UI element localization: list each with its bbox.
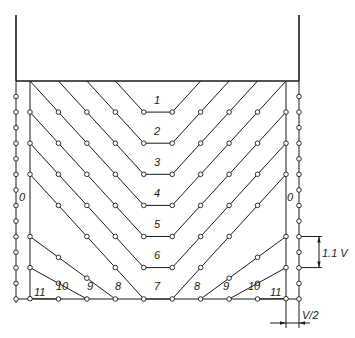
layer-label-8-right: 8 [194, 280, 201, 292]
layer-label-1: 1 [154, 94, 160, 106]
dimension-label-horizontal: V/2 [302, 309, 319, 321]
layer-label-2: 2 [153, 125, 160, 137]
layer-label-10-left: 10 [56, 280, 69, 292]
layer-label-8-left: 8 [115, 280, 122, 292]
layer-label-6: 6 [154, 249, 161, 261]
diagram-canvas: 1 2 3 4 5 6 7 11 10 9 8 8 9 10 11 0 0 1.… [0, 0, 355, 338]
layer-label-5: 5 [154, 218, 161, 230]
label-layer: 1 2 3 4 5 6 7 11 10 9 8 8 9 10 11 0 0 1.… [0, 0, 355, 338]
layer-label-10-right: 10 [248, 280, 261, 292]
side-label-left: 0 [19, 191, 26, 203]
layer-label-9-left: 9 [87, 280, 93, 292]
layer-label-7: 7 [154, 280, 161, 292]
dimension-label-vertical: 1.1 V [322, 247, 349, 259]
layer-label-4: 4 [154, 187, 160, 199]
layer-label-3: 3 [154, 156, 161, 168]
layer-label-11-right: 11 [270, 286, 281, 298]
layer-label-9-right: 9 [223, 280, 229, 292]
layer-label-11-left: 11 [34, 286, 45, 298]
side-label-right: 0 [287, 191, 294, 203]
